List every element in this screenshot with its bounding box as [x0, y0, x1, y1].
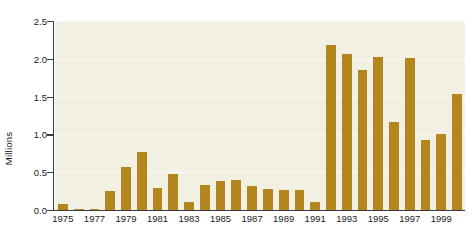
- x-axis-tick-label: 1989: [273, 213, 294, 224]
- bar: [421, 140, 431, 210]
- bar: [137, 152, 147, 210]
- bar: [121, 167, 131, 210]
- bar: [216, 181, 226, 210]
- bar: [310, 202, 320, 210]
- y-axis-title-label: Millions: [4, 131, 15, 164]
- y-axis-tick-label: 2.0: [34, 53, 47, 64]
- y-axis-tick-label: 1.0: [34, 129, 47, 140]
- y-axis-tick-mark: [47, 97, 53, 98]
- x-axis-tick-label: 1993: [336, 213, 357, 224]
- bar: [74, 209, 84, 211]
- bar: [200, 185, 210, 210]
- x-axis-tick-label: 1999: [431, 213, 452, 224]
- bar: [342, 54, 352, 210]
- bars-layer: [55, 21, 465, 210]
- x-axis-tick-label: 1991: [305, 213, 326, 224]
- x-axis-tick-label: 1981: [147, 213, 168, 224]
- y-axis-tick-mark: [47, 21, 53, 22]
- x-axis-line: [53, 210, 465, 211]
- x-axis-tick-label: 1979: [115, 213, 136, 224]
- bar: [105, 191, 115, 210]
- bar: [358, 70, 368, 210]
- x-axis-tick-labels: 1975197719791981198319851987198919911993…: [55, 213, 465, 233]
- y-axis-tick-label: 2.5: [34, 16, 47, 27]
- bar: [168, 174, 178, 210]
- bar: [436, 134, 446, 210]
- y-axis-title: Millions: [0, 0, 18, 244]
- x-axis-tick-label: 1977: [84, 213, 105, 224]
- y-axis-tick-mark: [47, 134, 53, 135]
- x-axis-tick-label: 1985: [210, 213, 231, 224]
- bar: [263, 189, 273, 210]
- bar: [247, 186, 257, 210]
- bar: [90, 209, 100, 211]
- y-axis-tick-mark: [47, 210, 53, 211]
- bar: [184, 202, 194, 210]
- x-axis-tick-label: 1995: [368, 213, 389, 224]
- y-axis-tick-labels: 0.00.51.01.52.02.5: [18, 0, 50, 244]
- bar: [405, 58, 415, 210]
- plot-area: [55, 21, 465, 210]
- y-axis-tick-label: 0.5: [34, 167, 47, 178]
- bar: [373, 57, 383, 210]
- bar: [153, 188, 163, 210]
- y-axis-tick-mark: [47, 59, 53, 60]
- bar: [326, 45, 336, 210]
- y-axis-tick-label: 0.0: [34, 205, 47, 216]
- bar: [389, 122, 399, 210]
- x-axis-tick-label: 1997: [399, 213, 420, 224]
- bar: [58, 204, 68, 210]
- bar: [231, 180, 241, 210]
- bar: [279, 190, 289, 210]
- y-axis-tick-mark: [47, 172, 53, 173]
- x-axis-tick-label: 1975: [52, 213, 73, 224]
- bar: [452, 94, 462, 210]
- bar: [295, 190, 305, 210]
- x-axis-tick-label: 1987: [242, 213, 263, 224]
- x-axis-tick-label: 1983: [178, 213, 199, 224]
- y-axis-tick-label: 1.5: [34, 91, 47, 102]
- bar-chart: Millions 0.00.51.01.52.02.5 197519771979…: [0, 0, 475, 244]
